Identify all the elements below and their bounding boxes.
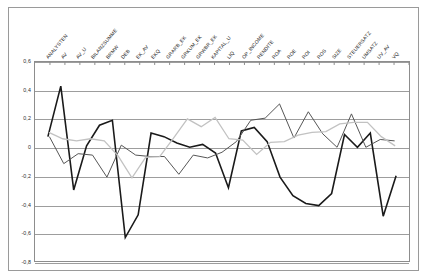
- y-tick-label: -0,4: [21, 202, 31, 208]
- x-tick-label: EK_AV: [135, 44, 150, 60]
- series-layer: [35, 62, 409, 261]
- x-axis: ANALYSTENAVAV_UBILANZSUMMEBRMWDEBEK_AVEK…: [34, 11, 410, 61]
- x-tick-label: ROA: [270, 47, 282, 60]
- x-tick-label: BRMW: [105, 44, 120, 60]
- x-tickmarks: [50, 62, 409, 65]
- gridline: [35, 263, 409, 264]
- y-tick-label: 0,6: [23, 58, 31, 64]
- y-tick-label: -0,8: [21, 259, 31, 265]
- y-tick-label: 0: [28, 144, 31, 150]
- plot-area: [34, 61, 410, 262]
- x-tick-label: SIZE: [330, 47, 342, 60]
- x-tick-label: ROE: [285, 47, 297, 60]
- x-tick-label: VQ: [390, 50, 399, 60]
- x-tick-label: AV_U: [75, 46, 88, 60]
- y-tick-label: -0,6: [21, 230, 31, 236]
- x-tick-label: DEB: [120, 48, 131, 60]
- x-tick-label: ROI: [300, 49, 311, 60]
- y-axis: 0,60,40,20-0,2-0,4-0,6-0,8: [12, 61, 34, 262]
- x-tick-label: UV_AV: [375, 43, 390, 60]
- y-tick-label: 0,2: [23, 115, 31, 121]
- x-tick-label: ROS: [315, 47, 327, 60]
- x-tick-label: AV: [59, 51, 68, 60]
- y-tick-label: 0,4: [23, 87, 31, 93]
- series-line-1: [48, 86, 396, 237]
- x-tick-label: LIQ: [225, 50, 235, 60]
- x-tick-label: EKQ: [150, 48, 162, 60]
- y-tick-label: -0,2: [21, 173, 31, 179]
- chart-frame: 0,60,40,20-0,2-0,4-0,6-0,8 ANALYSTENAVAV…: [8, 7, 419, 271]
- chart-inner-panel: 0,60,40,20-0,2-0,4-0,6-0,8 ANALYSTENAVAV…: [12, 11, 415, 267]
